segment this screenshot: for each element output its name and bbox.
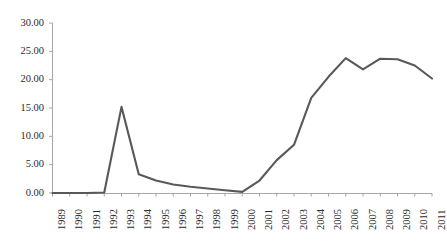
- x-axis-tick-label: 1993: [126, 209, 137, 230]
- x-axis-tick-label: 1991: [92, 209, 103, 230]
- x-axis-tick-label: 1995: [161, 209, 172, 230]
- x-axis-tick-label: 1996: [178, 209, 189, 230]
- x-axis-tick-label: 1989: [57, 209, 68, 230]
- x-axis-tick-label: 2000: [247, 209, 258, 230]
- x-axis-tick-label: 2008: [385, 209, 396, 230]
- x-axis-tick-label: 1990: [74, 209, 85, 230]
- x-axis-tick-label: 1997: [195, 209, 206, 230]
- x-axis-tick-label: 2004: [316, 209, 327, 230]
- x-axis-tick-label: 2005: [333, 209, 344, 230]
- x-axis-tick-label: 2003: [299, 209, 310, 230]
- x-axis-tick-label: 2010: [419, 209, 430, 230]
- x-axis-tick-label: 1998: [212, 209, 223, 230]
- x-axis-tick-label: 2001: [264, 209, 275, 230]
- x-axis-tick-label: 2007: [368, 209, 379, 230]
- x-axis-tick-label: 2009: [402, 209, 413, 230]
- x-axis-tick-label: 1992: [109, 209, 120, 230]
- x-axis-tick-label: 2002: [281, 209, 292, 230]
- x-axis-tick-label: 2011: [437, 209, 447, 230]
- x-axis-tick-label: 1999: [230, 209, 241, 230]
- x-axis-tick-label: 2006: [350, 209, 361, 230]
- x-axis-tick-label: 1994: [143, 209, 154, 230]
